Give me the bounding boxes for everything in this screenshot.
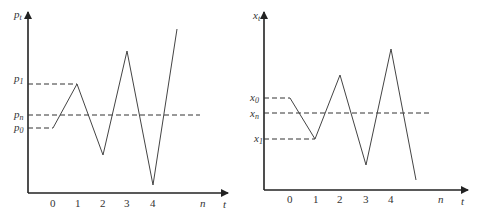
left-y-label: pt <box>13 8 23 22</box>
left-label-p0: p0 <box>13 121 24 135</box>
left-tick-n: n <box>200 197 206 209</box>
cobweb-diagrams: pt p1 pn p0 0 1 2 3 4 n t xt x0 xn x1 0 … <box>0 0 483 215</box>
left-x-label: t <box>223 198 227 210</box>
right-tick-2: 2 <box>337 193 343 205</box>
left-tick-0: 0 <box>50 197 56 209</box>
right-label-xn: xn <box>249 107 259 121</box>
left-chart: pt p1 pn p0 0 1 2 3 4 n t <box>13 8 228 210</box>
left-price-path <box>53 29 177 185</box>
left-tick-2: 2 <box>100 197 106 209</box>
right-tick-3: 3 <box>363 193 369 205</box>
right-quantity-path <box>290 49 416 180</box>
right-chart: xt x0 xn x1 0 1 2 3 4 n t <box>249 9 468 207</box>
right-tick-1: 1 <box>313 193 319 205</box>
right-x-label: t <box>461 195 465 207</box>
right-tick-n: n <box>438 193 444 205</box>
left-label-p1: p1 <box>13 72 24 86</box>
right-tick-4: 4 <box>388 193 394 205</box>
left-tick-1: 1 <box>75 197 81 209</box>
right-y-label: xt <box>252 9 261 23</box>
left-tick-3: 3 <box>124 197 130 209</box>
left-label-pn: pn <box>13 108 24 122</box>
right-label-x0: x0 <box>249 91 259 105</box>
left-tick-4: 4 <box>150 197 156 209</box>
right-tick-0: 0 <box>287 193 293 205</box>
right-label-x1: x1 <box>253 132 263 146</box>
